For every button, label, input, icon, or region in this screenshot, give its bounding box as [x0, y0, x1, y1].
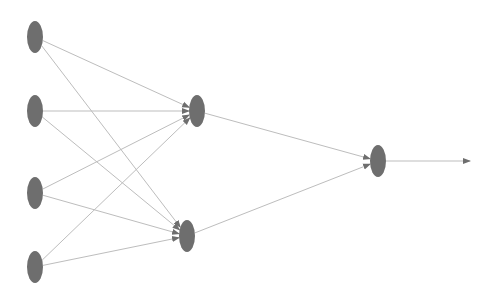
edge-i1-h2 — [42, 46, 181, 227]
neural-network-diagram — [0, 0, 497, 297]
input-node-i4 — [27, 251, 43, 283]
hidden-node-h2 — [179, 220, 195, 252]
edges-layer — [42, 41, 470, 266]
edge-h2-o1 — [195, 164, 370, 233]
input-node-i1 — [27, 21, 43, 53]
nodes-layer — [27, 21, 386, 283]
edge-i3-h2 — [43, 195, 179, 234]
output-node-o1 — [370, 145, 386, 177]
input-node-i3 — [27, 177, 43, 209]
edge-i4-h2 — [43, 238, 179, 266]
edge-i2-h2 — [42, 117, 179, 230]
input-node-i2 — [27, 95, 43, 127]
edge-i4-h1 — [42, 118, 190, 260]
edge-i1-h1 — [43, 41, 189, 108]
hidden-node-h1 — [189, 95, 205, 127]
edge-h1-o1 — [205, 113, 370, 159]
